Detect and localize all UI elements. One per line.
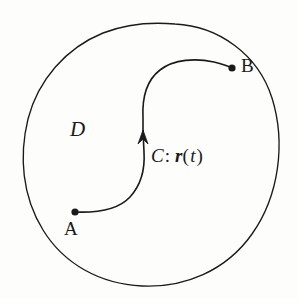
curve-C-upper-path	[143, 60, 232, 133]
vector-field-region-diagram: D A B C:r(t)	[0, 0, 298, 299]
point-label-B: B	[241, 56, 254, 75]
curve-label-name: C	[151, 145, 164, 166]
curve-label-paren-close: )	[196, 145, 203, 166]
curve-C-path	[75, 131, 144, 212]
point-B-marker	[228, 64, 235, 71]
point-label-A: A	[64, 219, 78, 238]
point-A-marker	[71, 208, 78, 215]
curve-label-separator: :	[164, 145, 175, 166]
curve-label-C: C:r(t)	[151, 146, 203, 165]
diagram-canvas	[0, 0, 298, 299]
region-label-D: D	[70, 119, 85, 140]
